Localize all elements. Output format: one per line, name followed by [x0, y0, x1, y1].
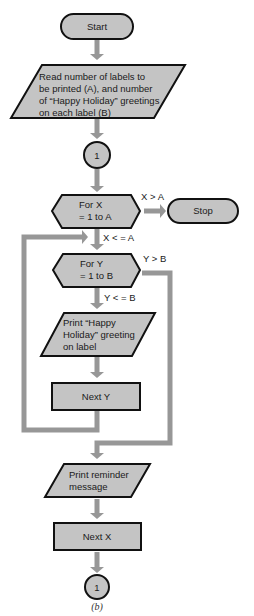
next-x-label: Next X — [83, 531, 112, 542]
arrowhead-icon — [90, 303, 104, 309]
arrowhead-icon — [82, 230, 88, 244]
arrowhead-icon — [90, 244, 104, 250]
arrowhead-icon — [90, 453, 104, 459]
connector-top: 1 — [84, 142, 110, 168]
flowchart: Start Read number of labels to be printe… — [0, 0, 254, 616]
print-greeting-line-2: Holiday” greeting — [63, 329, 135, 340]
arrowhead-icon — [90, 54, 104, 60]
print-reminder-line-2: message — [69, 481, 108, 492]
for-x-line-2: = 1 to A — [79, 211, 112, 222]
stop-label: Stop — [193, 205, 213, 216]
edge-label-y-gt-b: Y > B — [143, 253, 166, 264]
figure-caption: (b) — [91, 601, 103, 613]
connector-bottom: 1 — [85, 575, 109, 599]
start-terminal: Start — [61, 14, 133, 39]
read-input-line-4: on each label (B) — [39, 107, 111, 118]
next-y-box: Next Y — [52, 383, 140, 410]
for-y-line-2: = 1 to B — [80, 270, 113, 281]
read-input-line-1: Read number of labels to — [39, 71, 145, 82]
print-greeting-parallelogram: Print “Happy Holiday” greeting on label — [41, 313, 155, 356]
print-greeting-line-1: Print “Happy — [63, 317, 116, 328]
for-x-line-1: For X — [79, 199, 103, 210]
edge-label-x-gt-a: X > A — [141, 191, 165, 202]
connector-top-label: 1 — [94, 150, 99, 161]
read-input-line-3: of “Happy Holiday” greetings — [39, 95, 160, 106]
for-y-hexagon: For Y = 1 to B — [53, 254, 140, 287]
print-greeting-line-3: on label — [63, 341, 96, 352]
next-x-box: Next X — [54, 523, 141, 550]
arrowhead-icon — [90, 372, 104, 378]
arrowhead-icon — [90, 186, 104, 192]
edge-label-y-le-b: Y < = B — [104, 292, 136, 303]
print-reminder-parallelogram: Print reminder message — [45, 464, 150, 497]
read-input-parallelogram: Read number of labels to be printed (A),… — [11, 65, 185, 118]
stop-terminal: Stop — [168, 199, 238, 223]
for-x-hexagon: For X = 1 to A — [52, 195, 140, 228]
read-input-line-2: be printed (A), and number — [39, 83, 153, 94]
start-label: Start — [87, 21, 107, 32]
arrowhead-icon — [90, 567, 104, 573]
arrowhead-icon — [160, 204, 166, 218]
edge-label-x-le-a: X < = A — [103, 232, 135, 243]
arrowhead-icon — [90, 513, 104, 519]
print-reminder-line-1: Print reminder — [69, 469, 129, 480]
for-y-line-1: For Y — [80, 258, 104, 269]
next-y-label: Next Y — [82, 391, 111, 402]
arrowhead-icon — [90, 133, 104, 139]
connector-bottom-label: 1 — [94, 582, 99, 593]
